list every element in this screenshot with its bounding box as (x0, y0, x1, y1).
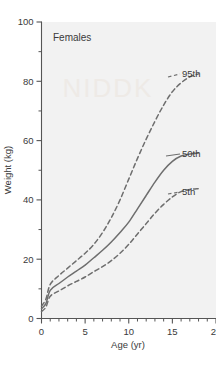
x-tick-label: 20 (211, 326, 216, 337)
y-tick-label: 20 (23, 254, 34, 265)
y-tick-label: 80 (23, 76, 34, 87)
y-tick-label: 60 (23, 135, 34, 146)
series-label-95th: 95th (182, 68, 201, 79)
growth-chart-figure: NIDDK 020406080100 05101520 Age (yr) Wei… (0, 0, 216, 365)
x-axis-tick-labels: 05101520 (39, 326, 216, 337)
x-axis-ticks (42, 319, 217, 324)
watermark-text: NIDDK (63, 73, 154, 103)
plot-background (41, 22, 216, 318)
y-axis-title: Weight (kg) (2, 146, 13, 194)
series-label-5th: 5th (182, 186, 195, 197)
chart-canvas: NIDDK 020406080100 05101520 Age (yr) Wei… (0, 0, 216, 365)
x-tick-label: 0 (39, 326, 44, 337)
y-tick-label: 40 (23, 194, 34, 205)
x-axis-title: Age (yr) (111, 339, 145, 350)
panel-title: Females (53, 32, 91, 43)
series-label-50th: 50th (182, 148, 201, 159)
x-tick-label: 15 (167, 326, 178, 337)
x-tick-label: 10 (123, 326, 134, 337)
y-axis-tick-labels: 020406080100 (18, 16, 34, 324)
y-axis-ticks (37, 22, 42, 319)
y-tick-label: 100 (18, 16, 34, 27)
x-tick-label: 5 (82, 326, 87, 337)
y-tick-label: 0 (28, 313, 33, 324)
